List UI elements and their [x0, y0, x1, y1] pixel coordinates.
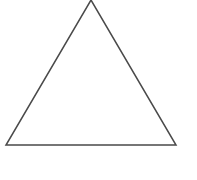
canvas-background	[0, 0, 197, 180]
figure-canvas	[0, 0, 197, 180]
triangle-drawing-svg	[0, 0, 197, 180]
